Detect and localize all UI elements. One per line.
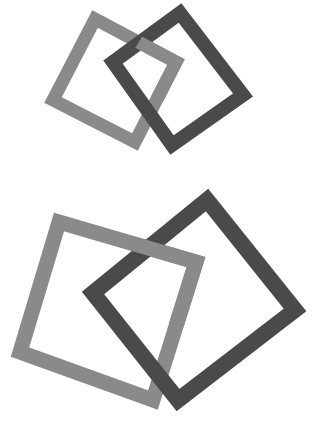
image-canvas xyxy=(0,0,312,424)
interlocking-squares-figure xyxy=(0,0,312,424)
